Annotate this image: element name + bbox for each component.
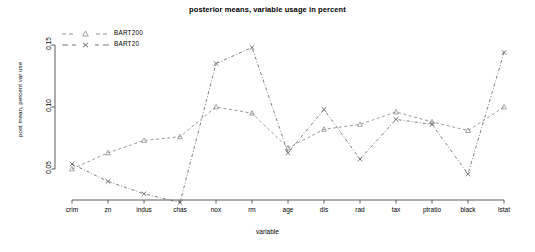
series-BART20: [70, 45, 507, 205]
data-point: [430, 122, 435, 127]
data-point: [322, 107, 327, 112]
data-point: [70, 162, 75, 167]
data-point: [466, 128, 471, 133]
data-point: [466, 172, 471, 177]
chart-canvas: posterior means, variable usage in perce…: [0, 0, 535, 252]
data-point: [142, 192, 147, 197]
data-point: [358, 157, 363, 162]
data-point: [502, 50, 507, 55]
data-point: [106, 179, 111, 184]
legend-swatch-bart200: [62, 30, 110, 32]
legend-label-bart20: BART20: [114, 40, 139, 47]
data-point: [250, 45, 255, 50]
data-point: [214, 61, 219, 66]
series-BART200: [70, 104, 507, 171]
legend-item-bart20[interactable]: BART20: [62, 40, 180, 50]
data-point: [394, 117, 399, 122]
legend-item-bart200[interactable]: BART200: [62, 29, 180, 39]
legend-swatch-bart20: [62, 41, 110, 43]
chart-legend: BART200 BART20: [62, 29, 180, 51]
data-point: [178, 200, 183, 205]
data-point: [286, 151, 291, 156]
legend-label-bart200: BART200: [114, 29, 143, 36]
data-point: [394, 109, 399, 114]
